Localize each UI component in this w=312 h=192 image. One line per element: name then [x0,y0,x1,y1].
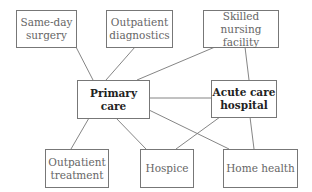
label-line: treatment [48,169,105,182]
label-line: facility [204,36,278,49]
edge-same-day-primary [76,47,93,80]
node-skilled-nursing-facility: Skilled nursing facility [203,10,279,48]
node-outpatient-diagnostics: Outpatient diagnostics [106,10,173,48]
label-line: Primary care [78,87,149,113]
edge-snf-primary [137,47,215,80]
edge-diagnostics-primary [106,47,135,80]
edge-primary-outpatient-treatment [71,118,89,149]
node-outpatient-treatment: Outpatient treatment [45,149,109,188]
label-line: surgery [20,29,72,42]
node-hospice: Hospice [140,149,194,188]
label-line: Skilled nursing [204,10,278,36]
edge-primary-hospice [116,118,146,149]
label-line: Acute care [213,86,276,99]
label-line: diagnostics [109,29,169,42]
label-line: Outpatient [109,16,169,29]
node-same-day-surgery: Same-day surgery [16,10,77,48]
node-home-health: Home health [223,149,298,188]
edge-acute-hospice [176,117,220,149]
node-acute-care-hospital: Acute care hospital [211,80,277,118]
label-line: hospital [213,99,276,112]
label-line: Home health [226,162,295,175]
edge-acute-home-health [250,117,254,149]
edge-snf-acute [245,47,249,80]
node-primary-care: Primary care [77,80,150,119]
label-line: Hospice [145,162,188,175]
label-line: Same-day [20,16,72,29]
label-line: Outpatient [48,156,105,169]
